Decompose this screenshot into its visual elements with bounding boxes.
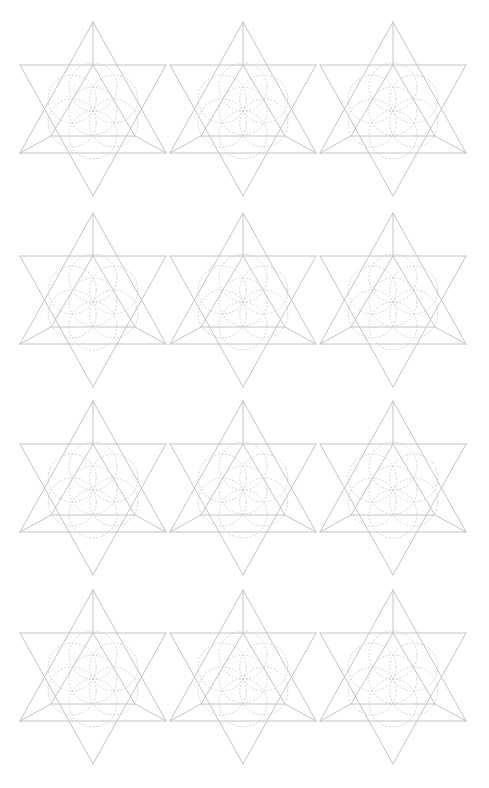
star-edge-line: [393, 633, 466, 764]
star-edge-line: [170, 22, 243, 153]
star-edge-line: [393, 65, 466, 196]
star-edge-line: [393, 401, 466, 532]
star-edge-line: [393, 22, 466, 153]
star-edge-line: [170, 633, 243, 764]
star-motif: [20, 590, 166, 764]
star-edge-line: [20, 401, 93, 532]
star-edge-line: [93, 444, 166, 575]
star-edge-line: [93, 22, 166, 153]
star-edge-line: [20, 633, 93, 764]
star-edge-line: [170, 444, 243, 575]
star-motif: [170, 401, 316, 575]
star-edge-line: [20, 444, 93, 575]
star-edge-line: [320, 444, 393, 575]
star-edge-line: [93, 256, 166, 387]
star-edge-line: [20, 22, 93, 153]
star-edge-line: [243, 213, 316, 344]
star-edge-line: [320, 22, 393, 153]
star-edge-line: [243, 590, 316, 721]
star-edge-line: [320, 633, 393, 764]
star-edge-line: [320, 256, 393, 387]
star-motif: [20, 213, 166, 387]
star-edge-line: [170, 65, 243, 196]
star-edge-line: [93, 590, 166, 721]
star-edge-line: [393, 256, 466, 387]
star-edge-line: [320, 213, 393, 344]
star-edge-line: [393, 590, 466, 721]
star-edge-line: [93, 65, 166, 196]
star-edge-line: [93, 633, 166, 764]
star-motif: [320, 590, 466, 764]
star-edge-line: [20, 65, 93, 196]
star-edge-line: [243, 444, 316, 575]
star-edge-line: [320, 590, 393, 721]
star-edge-line: [320, 401, 393, 532]
star-edge-line: [93, 213, 166, 344]
star-edge-line: [170, 401, 243, 532]
star-edge-line: [170, 590, 243, 721]
star-edge-line: [20, 213, 93, 344]
star-edge-line: [243, 22, 316, 153]
star-motif: [320, 401, 466, 575]
star-edge-line: [393, 213, 466, 344]
star-edge-line: [320, 65, 393, 196]
star-edge-line: [393, 444, 466, 575]
star-edge-line: [170, 213, 243, 344]
star-edge-line: [243, 256, 316, 387]
star-edge-line: [93, 401, 166, 532]
star-motif: [320, 213, 466, 387]
star-motif: [320, 22, 466, 196]
star-edge-line: [243, 401, 316, 532]
star-edge-line: [243, 65, 316, 196]
star-edge-line: [243, 633, 316, 764]
star-edge-line: [20, 256, 93, 387]
star-edge-line: [170, 256, 243, 387]
sacred-geometry-sheet: [0, 0, 489, 788]
star-motif: [170, 22, 316, 196]
star-edge-line: [20, 590, 93, 721]
star-motif: [170, 590, 316, 764]
star-motif: [170, 213, 316, 387]
star-motif: [20, 22, 166, 196]
star-motif: [20, 401, 166, 575]
